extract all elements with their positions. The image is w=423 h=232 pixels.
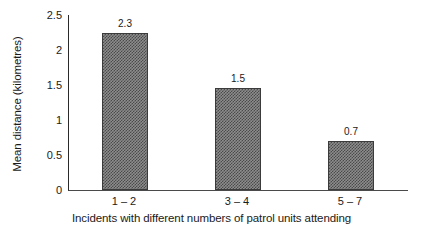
- bar-group: 1.5: [215, 15, 261, 190]
- x-axis-tick-label: 3 – 4: [187, 196, 287, 207]
- bar[interactable]: [328, 141, 374, 190]
- bar-value-label: 1.5: [205, 74, 271, 84]
- x-axis-tick-label: 5 – 7: [300, 196, 400, 207]
- bar-value-label: 2.3: [92, 19, 158, 29]
- bar-group: 2.3: [102, 15, 148, 190]
- x-axis-title: Incidents with different numbers of patr…: [0, 212, 423, 224]
- y-axis-tick-label: 2: [20, 45, 62, 56]
- y-axis-tick-label: 1.5: [20, 80, 62, 91]
- bar[interactable]: [102, 33, 148, 190]
- y-axis-title: Mean distance (kilometres): [11, 14, 23, 194]
- y-axis-tick-label: 0.5: [20, 150, 62, 161]
- y-axis-tick-label: 0: [20, 185, 62, 196]
- bar-value-label: 0.7: [318, 127, 384, 137]
- bar[interactable]: [215, 88, 261, 190]
- bar-chart: Mean distance (kilometres) 00.511.522.5 …: [0, 0, 423, 232]
- y-axis-tick-label: 1: [20, 115, 62, 126]
- bar-group: 0.7: [328, 15, 374, 190]
- x-axis-tick-label: 1 – 2: [74, 196, 174, 207]
- bars-layer: 2.31.50.7: [69, 15, 408, 190]
- y-axis-tick-label: 2.5: [20, 10, 62, 21]
- plot-area: 2.31.50.7: [68, 15, 408, 191]
